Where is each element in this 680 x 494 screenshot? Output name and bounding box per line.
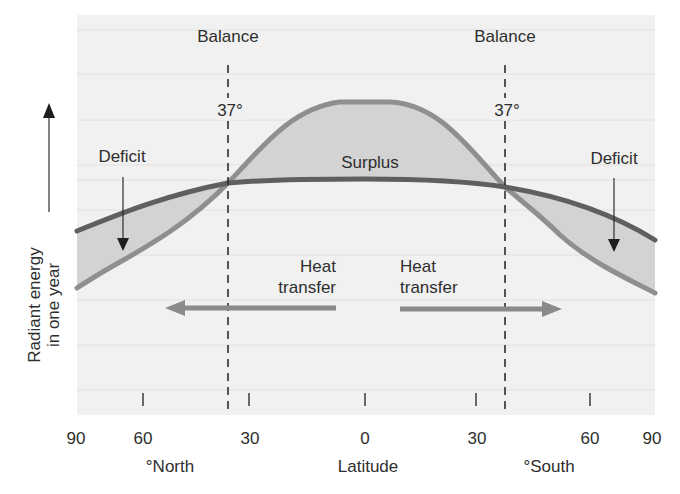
surplus-label: Surplus [341,153,399,172]
x-tick-60-south: 60 [581,429,600,448]
heat-transfer-label-south-line2: transfer [400,278,458,297]
x-axis-south-label: °South [523,457,574,476]
balance-label-north: Balance [197,27,258,46]
balance-label-south: Balance [474,27,535,46]
heat-transfer-label-north-line2: transfer [278,278,336,297]
x-tick-30-north: 30 [241,429,260,448]
x-tick-90-north: 90 [67,429,86,448]
x-axis-title: Latitude [338,457,399,476]
x-axis-north-label: °North [146,457,194,476]
x-tick-30-south: 30 [468,429,487,448]
x-tick-90-south: 90 [643,429,662,448]
heat-transfer-label-north-line1: Heat [300,257,336,276]
balance-degree-south: 37° [494,101,520,120]
energy-balance-diagram: Balance Balance 37° 37° Surplus Deficit … [0,0,680,494]
balance-degree-north: 37° [217,101,243,120]
y-axis-title-line1: Radiant energy [25,247,44,363]
deficit-label-south: Deficit [590,149,638,168]
x-tick-60-north: 60 [134,429,153,448]
y-axis-title-line2: in one year [44,263,63,347]
deficit-label-north: Deficit [98,147,146,166]
heat-transfer-label-south-line1: Heat [400,257,436,276]
y-axis-arrow-up-icon [43,103,55,212]
x-tick-0: 0 [360,429,369,448]
